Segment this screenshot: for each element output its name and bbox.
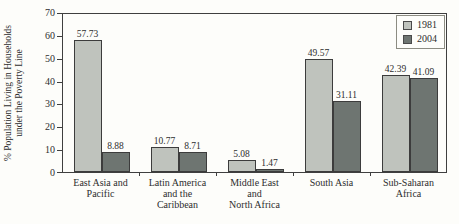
legend: 1981 2004: [396, 15, 445, 49]
value-label-2004-0: 8.88: [96, 141, 136, 152]
legend-entry-2004: 2004: [403, 33, 437, 45]
x-boundary-tick: [139, 173, 140, 176]
value-label-2004-3: 31.11: [327, 90, 367, 101]
y-tick-mark: [57, 13, 62, 14]
value-label-1981-3: 49.57: [299, 48, 339, 59]
legend-swatch-1981: [403, 21, 412, 30]
y-tick-mark: [57, 104, 62, 105]
y-tick-label: 40: [29, 76, 55, 88]
y-tick-mark: [57, 172, 62, 173]
legend-swatch-2004: [403, 35, 412, 44]
value-label-1981-0: 57.73: [68, 29, 108, 40]
bar-2004-4: [410, 78, 438, 172]
y-tick-label: 10: [29, 144, 55, 156]
y-tick-mark: [57, 36, 62, 37]
y-tick-mark: [57, 127, 62, 128]
x-boundary-tick: [370, 173, 371, 176]
value-label-2004-4: 41.09: [404, 67, 444, 78]
y-axis-title: % Population Living in Households under …: [3, 13, 25, 173]
y-tick-mark: [57, 150, 62, 151]
category-label-1: Latin America and the Caribbean: [139, 177, 216, 210]
bar-1981-4: [382, 75, 410, 172]
legend-entry-1981: 1981: [403, 19, 437, 31]
value-label-2004-2: 1.47: [250, 158, 290, 169]
y-tick-label: 20: [29, 121, 55, 133]
y-tick-label: 60: [29, 30, 55, 42]
bar-chart-figure: % Population Living in Households under …: [0, 0, 459, 224]
x-boundary-tick: [293, 173, 294, 176]
category-label-3: South Asia: [293, 177, 370, 188]
category-label-0: East Asia and Pacific: [62, 177, 139, 199]
x-boundary-tick: [216, 173, 217, 176]
y-tick-mark: [57, 82, 62, 83]
bar-1981-3: [305, 59, 333, 172]
bar-2004-3: [333, 101, 361, 172]
category-label-2: Middle East and North Africa: [216, 177, 293, 210]
bar-1981-0: [74, 40, 102, 172]
bar-2004-1: [179, 152, 207, 172]
category-label-4: Sub-Saharan Africa: [370, 177, 447, 199]
value-label-2004-1: 8.71: [173, 141, 213, 152]
legend-label-2004: 2004: [417, 33, 437, 45]
y-tick-mark: [57, 59, 62, 60]
bar-2004-0: [102, 152, 130, 172]
legend-label-1981: 1981: [417, 19, 437, 31]
bar-2004-2: [256, 169, 284, 172]
y-tick-label: 50: [29, 53, 55, 65]
y-tick-label: 0: [29, 167, 55, 179]
y-tick-label: 30: [29, 98, 55, 110]
y-tick-label: 70: [29, 7, 55, 19]
plot-area: 1981 2004 57.738.8810.778.715.081.4749.5…: [62, 13, 447, 173]
